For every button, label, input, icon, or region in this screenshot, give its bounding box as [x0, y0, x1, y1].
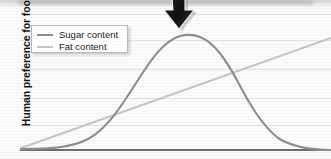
chart-figure: Human preference for food Sugar content …: [0, 0, 331, 159]
legend-item-fat-content: Fat content: [37, 41, 123, 52]
legend-label-fat-content: Fat content: [59, 41, 107, 52]
fat-line-swatch-icon: [37, 46, 53, 48]
legend-label-sugar-content: Sugar content: [59, 29, 118, 40]
fat-content-line: [21, 38, 331, 148]
chart-legend: Sugar content Fat content: [31, 25, 128, 53]
down-arrow-pointer-icon: [160, 0, 208, 36]
sugar-line-swatch-icon: [37, 34, 53, 36]
legend-item-sugar-content: Sugar content: [37, 29, 123, 40]
